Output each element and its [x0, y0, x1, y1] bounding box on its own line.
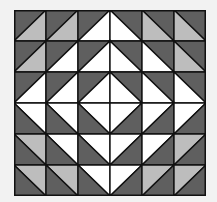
quilt-svg	[14, 10, 206, 196]
quilt-pattern	[14, 10, 206, 196]
